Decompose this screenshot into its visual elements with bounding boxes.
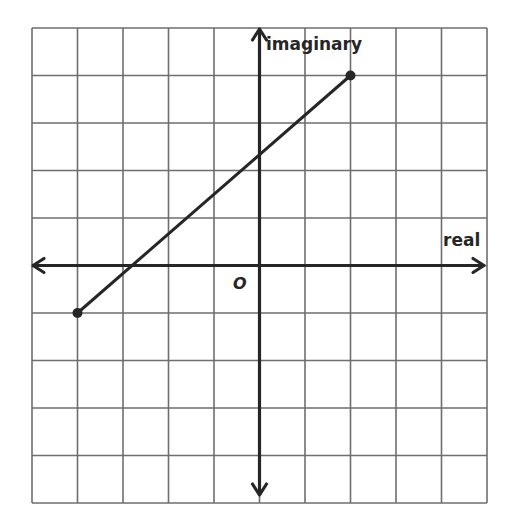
origin-label: O [233, 276, 247, 292]
axes [32, 29, 484, 495]
end-point [346, 71, 356, 81]
imaginary-axis-label: imaginary [266, 36, 362, 53]
complex-plane [0, 0, 511, 531]
real-axis-label: real [443, 232, 480, 249]
start-point [73, 308, 83, 318]
